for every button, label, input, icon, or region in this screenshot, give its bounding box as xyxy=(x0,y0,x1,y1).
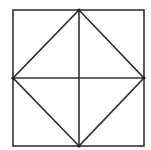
vertex-bottom xyxy=(77,144,80,147)
vertex-right xyxy=(142,76,145,79)
geometric-diagram xyxy=(0,0,151,150)
vertex-left xyxy=(11,76,14,79)
vertex-top xyxy=(77,8,80,11)
background xyxy=(0,0,151,150)
